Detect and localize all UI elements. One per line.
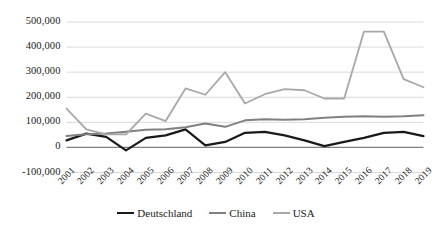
legend-item-china[interactable]: China	[209, 207, 255, 219]
legend-item-deutschland[interactable]: Deutschland	[117, 207, 192, 219]
legend-line-swatch	[209, 212, 226, 214]
legend-label: China	[229, 207, 255, 219]
gridlines	[67, 22, 424, 173]
legend-item-usa[interactable]: USA	[273, 207, 315, 219]
line-chart: 500,000400,000300,000200,000100,0000-100…	[0, 0, 432, 236]
legend-label: Deutschland	[137, 207, 192, 219]
legend-line-swatch	[117, 212, 134, 214]
legend-line-swatch	[273, 212, 290, 214]
chart-legend: DeutschlandChinaUSA	[0, 207, 432, 219]
data-series-group	[67, 32, 424, 151]
legend-label: USA	[293, 207, 315, 219]
chart-plot-area	[0, 0, 432, 236]
